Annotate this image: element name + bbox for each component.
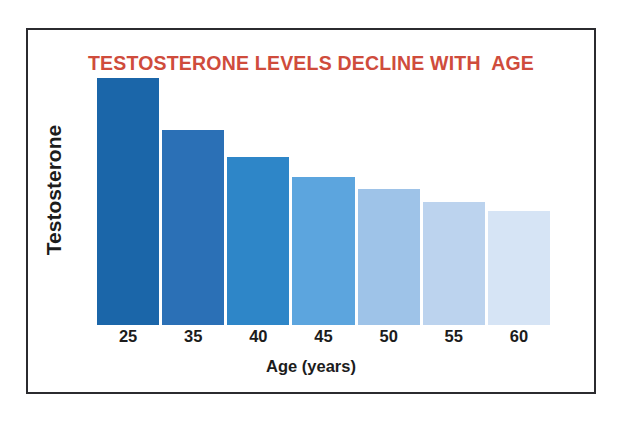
- x-axis-tick-labels: 25354045505560: [97, 327, 553, 353]
- bar-45: [292, 177, 354, 325]
- bar-column: [488, 78, 550, 325]
- bar-column: [162, 78, 224, 325]
- bar-column: [227, 78, 289, 325]
- x-tick-45: 45: [292, 327, 354, 346]
- x-axis-label: Age (years): [28, 357, 594, 376]
- x-tick-25: 25: [97, 327, 159, 346]
- x-tick-40: 40: [227, 327, 289, 346]
- bar-50: [358, 189, 420, 325]
- x-tick-50: 50: [358, 327, 420, 346]
- chart-title: TESTOSTERONE LEVELS DECLINE WITH AGE: [28, 52, 594, 75]
- bar-column: [423, 78, 485, 325]
- plot-area: [97, 78, 553, 325]
- bar-column: [292, 78, 354, 325]
- bar-55: [423, 202, 485, 326]
- x-tick-35: 35: [162, 327, 224, 346]
- bar-column: [358, 78, 420, 325]
- bar-column: [97, 78, 159, 325]
- bar-35: [162, 130, 224, 325]
- chart-frame: TESTOSTERONE LEVELS DECLINE WITH AGE Tes…: [26, 28, 596, 394]
- bar-40: [227, 157, 289, 325]
- bar-60: [488, 211, 550, 325]
- x-tick-60: 60: [488, 327, 550, 346]
- y-axis-label: Testosterone: [42, 110, 66, 270]
- bar-25: [97, 78, 159, 325]
- x-tick-55: 55: [423, 327, 485, 346]
